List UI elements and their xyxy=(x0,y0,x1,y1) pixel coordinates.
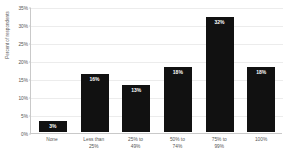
bar-slot: 32% xyxy=(199,8,241,132)
x-axis-labels: NoneLess than25%25% to49%50% to74%75% to… xyxy=(31,137,282,150)
bars-container: 3%16%13%18%32%18% xyxy=(32,8,282,132)
y-tick-label: 0% xyxy=(21,132,28,137)
bar-value-label: 18% xyxy=(173,69,183,75)
bar-slot: 16% xyxy=(74,8,116,132)
bar-slot: 3% xyxy=(32,8,74,132)
y-tick-label: 10% xyxy=(18,96,28,101)
y-tick-label: 35% xyxy=(18,6,28,11)
bar-slot: 18% xyxy=(157,8,199,132)
chart-title xyxy=(0,0,285,4)
x-axis-label: 100% xyxy=(240,137,282,150)
y-tick-label: 15% xyxy=(18,78,28,83)
y-tick-mark xyxy=(29,98,31,99)
y-tick-mark xyxy=(29,26,31,27)
x-axis-label-line: 49% xyxy=(115,144,157,151)
y-tick-label: 25% xyxy=(18,42,28,47)
y-tick-mark xyxy=(29,44,31,45)
bar[interactable]: 18% xyxy=(247,67,275,132)
x-axis-label-line: 99% xyxy=(198,144,240,151)
x-axis-label: None xyxy=(31,137,73,150)
bar[interactable]: 3% xyxy=(39,121,67,132)
x-axis-label-line: 74% xyxy=(156,144,198,151)
y-tick-label: 20% xyxy=(18,60,28,65)
bar[interactable]: 32% xyxy=(206,17,234,132)
bar-chart: Percent of respondents 0%5%10%15%20%25%3… xyxy=(0,0,285,163)
bar-value-label: 32% xyxy=(215,19,225,25)
x-axis-label: 75% to99% xyxy=(198,137,240,150)
y-tick-mark xyxy=(29,80,31,81)
y-tick-mark xyxy=(29,62,31,63)
x-axis-label-line: 25% xyxy=(73,144,115,151)
bar-value-label: 3% xyxy=(49,123,56,129)
x-axis-label: Less than25% xyxy=(73,137,115,150)
y-tick-mark xyxy=(29,8,31,9)
bar-slot: 18% xyxy=(240,8,282,132)
y-tick-mark xyxy=(29,116,31,117)
bar-slot: 13% xyxy=(115,8,157,132)
plot-wrapper: 0%5%10%15%20%25%30%35% 3%16%13%18%32%18% xyxy=(30,8,282,134)
bar-value-label: 13% xyxy=(131,87,141,93)
bar[interactable]: 13% xyxy=(122,85,150,132)
bar[interactable]: 16% xyxy=(81,74,109,132)
bar[interactable]: 18% xyxy=(164,67,192,132)
x-axis-label: 25% to49% xyxy=(115,137,157,150)
bar-value-label: 16% xyxy=(89,76,99,82)
y-tick-label: 30% xyxy=(18,24,28,29)
y-axis-title: Percent of respondents xyxy=(5,0,11,87)
bar-value-label: 18% xyxy=(256,69,266,75)
x-axis-label-line: None xyxy=(31,137,73,144)
y-tick-label: 5% xyxy=(21,114,28,119)
x-axis-label-line: 100% xyxy=(240,137,282,144)
y-tick-mark xyxy=(29,134,31,135)
x-axis-label: 50% to74% xyxy=(156,137,198,150)
plot-area: 0%5%10%15%20%25%30%35% 3%16%13%18%32%18% xyxy=(30,8,282,134)
